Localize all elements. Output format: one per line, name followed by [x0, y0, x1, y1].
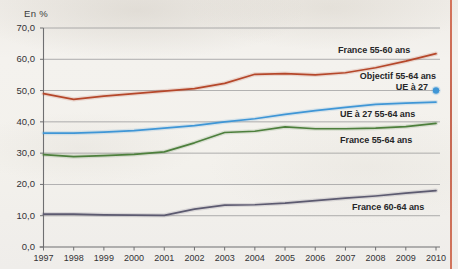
x-axis-tick-label: 2007 [328, 253, 362, 263]
objectif-marker-dot [433, 87, 439, 93]
series-label-france-55-64: France 55-64 ans [340, 135, 412, 145]
y-axis-tick-label: 70,0 [5, 22, 35, 33]
series-label-france-55-60: France 55-60 ans [338, 45, 410, 55]
y-axis-tick-label: 20,0 [5, 178, 35, 189]
x-axis-tick-label: 2002 [177, 253, 211, 263]
x-axis-tick-label: 2006 [298, 253, 332, 263]
y-axis-tick-label: 10,0 [5, 210, 35, 221]
x-axis-tick-label: 2004 [238, 253, 272, 263]
x-axis-tick-label: 1997 [27, 253, 61, 263]
x-axis-tick-label: 1998 [57, 253, 91, 263]
y-axis-tick-label: 0,0 [5, 241, 35, 252]
chart-figure: En % 0,010,020,030,040,050,060,070,0 199… [0, 0, 458, 269]
x-axis-tick-label: 2003 [208, 253, 242, 263]
x-axis-tick-label: 2010 [419, 253, 453, 263]
series-markers [431, 86, 440, 95]
series-label-france-60-64: France 60-64 ans [352, 202, 424, 212]
y-axis-tick-label: 50,0 [5, 85, 35, 96]
series-label-objectif-line2: UE à 27 [318, 82, 428, 92]
x-axis-tick-label: 2001 [147, 253, 181, 263]
x-axis-tick-label: 2000 [117, 253, 151, 263]
x-axis-tick-label: 2008 [359, 253, 393, 263]
series-label-ue27-55-64: UE à 27 55-64 ans [340, 109, 415, 119]
x-axis-tick-label: 1999 [87, 253, 121, 263]
x-axis-tick-label: 2009 [389, 253, 423, 263]
y-axis-tick-label: 30,0 [5, 147, 35, 158]
series-label-objectif-line1: Objectif 55-64 ans [318, 71, 436, 81]
y-axis-tick-label: 60,0 [5, 53, 35, 64]
page-edge-rule [450, 0, 452, 269]
x-axis-tick-label: 2005 [268, 253, 302, 263]
y-axis-tick-label: 40,0 [5, 116, 35, 127]
